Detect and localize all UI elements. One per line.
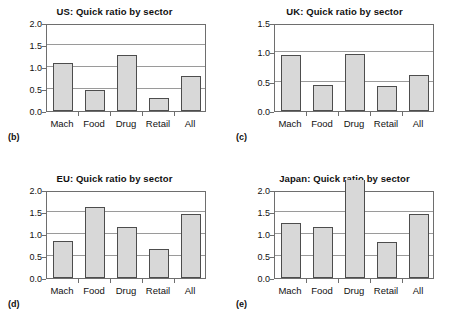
- y-axis-tick-mark: [270, 83, 274, 84]
- chart-title: US: Quick ratio by sector: [0, 6, 229, 17]
- x-axis-tick-mark: [370, 279, 371, 283]
- x-axis-label-food: Food: [83, 285, 105, 296]
- chart-panel-eu: EU: Quick ratio by sector (d) 0.00.51.01…: [0, 167, 229, 334]
- y-axis-tick-label: 1.0: [230, 230, 270, 240]
- y-axis-tick-mark: [42, 68, 46, 69]
- bar-all: [409, 214, 429, 278]
- bar-series: [47, 25, 205, 111]
- bar-mach: [53, 63, 73, 111]
- y-axis-tick-mark: [42, 213, 46, 214]
- bar-food: [313, 227, 333, 278]
- bar-mach: [281, 223, 301, 278]
- x-axis-label-drug: Drug: [116, 285, 137, 296]
- bar-all: [181, 76, 201, 111]
- y-axis-tick-mark: [270, 235, 274, 236]
- x-axis-tick-mark: [142, 112, 143, 116]
- bar-series: [275, 25, 433, 111]
- panel-label: (e): [236, 299, 247, 309]
- x-axis-tick-mark: [370, 112, 371, 116]
- y-axis-tick-mark: [42, 112, 46, 113]
- panel-label: (d): [8, 299, 20, 309]
- plot-area: [46, 24, 206, 112]
- plot-area: [46, 191, 206, 279]
- x-axis-tick-mark: [110, 279, 111, 283]
- y-axis-tick-label: 0.5: [2, 85, 42, 95]
- y-axis-tick-label: 0.0: [2, 274, 42, 284]
- x-axis-label-all: All: [185, 118, 196, 129]
- y-axis-tick-label: 0.0: [230, 107, 270, 117]
- y-axis-tick-mark: [270, 191, 274, 192]
- x-axis-label-food: Food: [311, 285, 333, 296]
- x-axis-tick-mark: [110, 112, 111, 116]
- bar-food: [85, 90, 105, 111]
- y-axis-tick-label: 0.5: [230, 252, 270, 262]
- y-axis-tick-label: 1.5: [230, 208, 270, 218]
- x-axis-label-drug: Drug: [344, 118, 365, 129]
- x-axis-tick-mark: [142, 279, 143, 283]
- x-axis-tick-mark: [174, 112, 175, 116]
- y-axis-tick-mark: [270, 112, 274, 113]
- x-axis-label-retail: Retail: [374, 285, 398, 296]
- x-axis-label-food: Food: [311, 118, 333, 129]
- bar-retail: [377, 86, 397, 111]
- bar-retail: [149, 249, 169, 278]
- y-axis-tick-label: 2.0: [2, 19, 42, 29]
- x-axis-label-mach: Mach: [278, 285, 301, 296]
- y-axis-tick-label: 0.0: [2, 107, 42, 117]
- y-axis-tick-mark: [42, 257, 46, 258]
- y-axis-tick-label: 1.5: [2, 41, 42, 51]
- x-axis-tick-mark: [338, 112, 339, 116]
- y-axis-tick-label: 0.5: [2, 252, 42, 262]
- y-axis-tick-mark: [270, 279, 274, 280]
- x-axis-tick-mark: [306, 112, 307, 116]
- chart-panel-uk: UK: Quick ratio by sector (c) 0.00.51.01…: [230, 0, 459, 167]
- x-axis-tick-mark: [402, 112, 403, 116]
- x-axis-label-retail: Retail: [146, 285, 170, 296]
- bar-retail: [149, 98, 169, 111]
- x-axis-tick-mark: [306, 279, 307, 283]
- x-axis-label-retail: Retail: [374, 118, 398, 129]
- x-axis-label-mach: Mach: [278, 118, 301, 129]
- x-axis-tick-mark: [78, 279, 79, 283]
- bar-food: [313, 85, 333, 111]
- y-axis-tick-label: 0.5: [230, 78, 270, 88]
- plot-area: [274, 24, 434, 112]
- y-axis-tick-mark: [42, 46, 46, 47]
- bar-drug: [345, 180, 365, 278]
- x-axis-tick-mark: [78, 112, 79, 116]
- y-axis-tick-label: 1.5: [2, 208, 42, 218]
- y-axis-tick-mark: [42, 279, 46, 280]
- bar-series: [47, 192, 205, 278]
- x-axis-tick-mark: [338, 279, 339, 283]
- y-axis-tick-mark: [270, 213, 274, 214]
- y-axis-tick-label: 1.5: [230, 19, 270, 29]
- panel-label: (b): [8, 132, 20, 142]
- bar-drug: [117, 227, 137, 278]
- y-axis-tick-label: 1.0: [230, 48, 270, 58]
- bar-food: [85, 207, 105, 278]
- bar-mach: [53, 241, 73, 278]
- x-axis-label-drug: Drug: [116, 118, 137, 129]
- bar-drug: [345, 54, 365, 111]
- y-axis-tick-label: 2.0: [2, 186, 42, 196]
- bar-all: [409, 75, 429, 111]
- y-axis-tick-label: 1.0: [2, 230, 42, 240]
- x-axis-label-mach: Mach: [50, 118, 73, 129]
- x-axis-label-all: All: [413, 118, 424, 129]
- x-axis-label-drug: Drug: [344, 285, 365, 296]
- y-axis-tick-mark: [42, 90, 46, 91]
- bar-retail: [377, 242, 397, 278]
- y-axis-tick-mark: [42, 235, 46, 236]
- y-axis-tick-label: 2.0: [230, 186, 270, 196]
- bar-mach: [281, 55, 301, 111]
- chart-panel-japan: Japan: Quick ratio by sector (e) 0.00.51…: [230, 167, 459, 334]
- panel-label: (c): [236, 132, 247, 142]
- x-axis-label-all: All: [413, 285, 424, 296]
- y-axis-tick-label: 0.0: [230, 274, 270, 284]
- y-axis-tick-mark: [270, 53, 274, 54]
- chart-panel-us: US: Quick ratio by sector (b) 0.00.51.01…: [0, 0, 229, 167]
- x-axis-label-mach: Mach: [50, 285, 73, 296]
- quick-ratio-figure: US: Quick ratio by sector (b) 0.00.51.01…: [0, 0, 459, 334]
- bar-drug: [117, 55, 137, 111]
- chart-title: EU: Quick ratio by sector: [0, 173, 229, 184]
